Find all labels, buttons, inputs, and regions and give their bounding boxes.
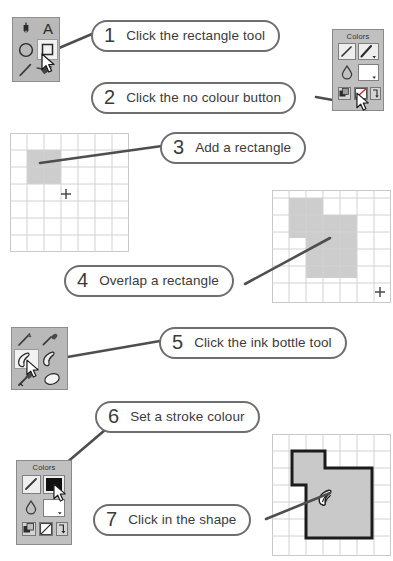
callout-step-5: 5 Click the ink bottle tool: [159, 327, 347, 359]
callout-step-6: 6 Set a stroke colour: [95, 401, 260, 433]
rectangle-2: [306, 215, 357, 278]
callout-step-3: 3 Add a rectangle: [160, 132, 306, 164]
canvas-overlapping-rectangles[interactable]: [272, 190, 391, 303]
ellipse-tool[interactable]: [17, 41, 35, 59]
fill-colour-swatch[interactable]: [358, 64, 379, 81]
line-tool[interactable]: [17, 61, 35, 79]
callout-step-2: 2 Click the no colour button: [91, 82, 296, 114]
swap-colors-button[interactable]: [56, 522, 68, 536]
callout-step-4: 4 Overlap a rectangle: [64, 265, 234, 297]
tutorial-page: A: [0, 0, 393, 561]
colors-panel-title: Colors: [333, 32, 383, 41]
default-colors-button[interactable]: [338, 87, 351, 100]
arrow-cursor: [41, 53, 58, 75]
fill-tool-indicator: [23, 499, 39, 515]
callout-number: 6: [108, 406, 119, 426]
callout-number: 1: [104, 25, 115, 45]
arrow-cursor: [26, 359, 42, 380]
arrow-cursor: [356, 92, 372, 113]
callout-step-1: 1 Click the rectangle tool: [91, 20, 280, 52]
grid: [10, 133, 129, 252]
callout-text: Overlap a rectangle: [99, 274, 219, 288]
eraser-tool[interactable]: [41, 370, 63, 388]
fill-tool-indicator: [339, 64, 355, 80]
canvas-stroked-shape[interactable]: [272, 434, 391, 556]
brush-tool[interactable]: [40, 331, 60, 348]
stroke-tool-indicator: [22, 475, 41, 494]
default-colors-button[interactable]: [22, 522, 36, 536]
paint-tool-palette[interactable]: [11, 327, 68, 390]
callout-number: 2: [104, 87, 115, 107]
colors-panel-title: Colors: [17, 463, 71, 472]
callout-text: Click the ink bottle tool: [194, 336, 332, 350]
callout-number: 5: [172, 332, 183, 352]
callout-text: Click in the shape: [128, 513, 236, 527]
stroke-tool-indicator: [338, 43, 356, 60]
stroke-colour-swatch[interactable]: [358, 43, 379, 60]
pencil-tool[interactable]: [16, 331, 36, 348]
callout-number: 7: [106, 509, 117, 529]
grid: [272, 190, 391, 303]
no-colour-button[interactable]: [39, 522, 53, 536]
colors-panel-top[interactable]: Colors: [332, 29, 384, 111]
colors-panel-bottom[interactable]: Colors: [16, 460, 72, 545]
ink-bottle-cursor: [316, 488, 340, 508]
pen-nib-tool[interactable]: [17, 21, 35, 39]
text-tool[interactable]: A: [39, 20, 57, 38]
callout-step-7: 7 Click in the shape: [93, 504, 251, 536]
callout-text: Click the no colour button: [126, 91, 281, 105]
callout-text: Click the rectangle tool: [126, 29, 265, 43]
paint-bucket-tool[interactable]: [41, 350, 63, 368]
arrow-cursor: [53, 483, 69, 504]
shape-tool-palette[interactable]: A: [12, 17, 60, 82]
callout-number: 3: [173, 137, 184, 157]
svg-text:A: A: [43, 20, 53, 37]
canvas-single-rectangle[interactable]: [10, 133, 129, 252]
callout-text: Add a rectangle: [195, 141, 291, 155]
callout-text: Set a stroke colour: [130, 410, 244, 424]
callout-number: 4: [77, 270, 88, 290]
